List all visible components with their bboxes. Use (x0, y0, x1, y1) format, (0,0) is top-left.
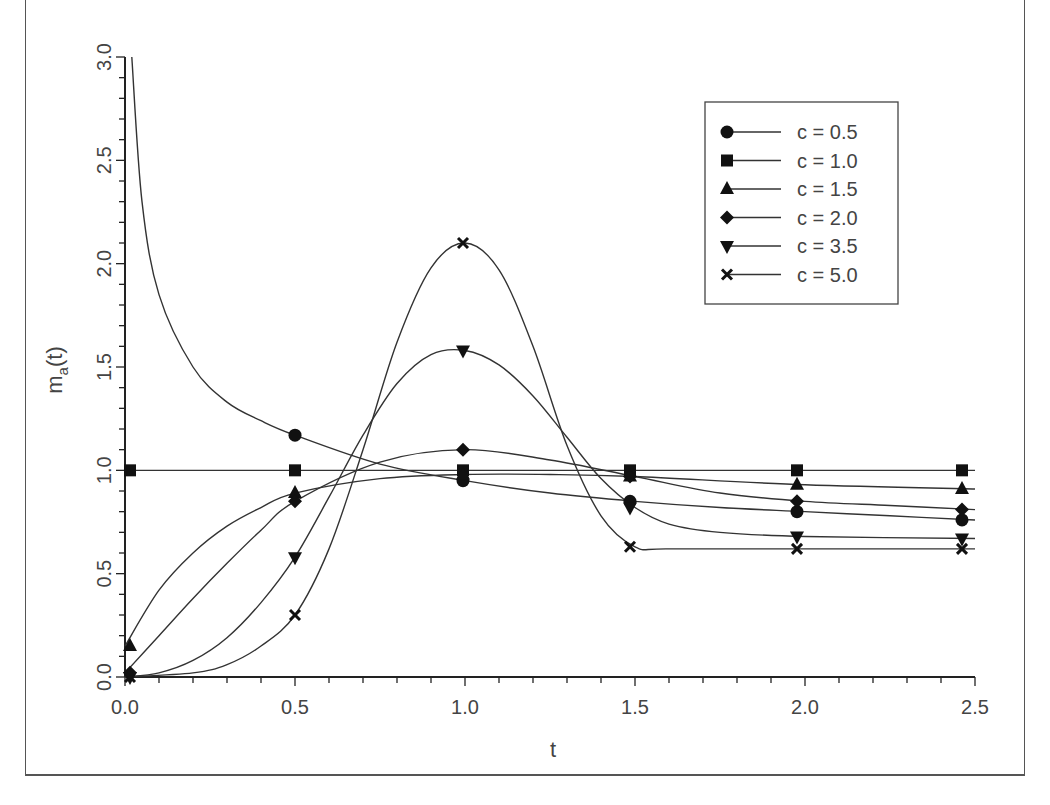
legend-marker-square (721, 155, 733, 167)
y-tick-label: 0.0 (93, 663, 115, 691)
y-axis-title-main: m (42, 375, 67, 393)
chart: 0.00.51.01.52.02.50.00.51.01.52.02.53.0 … (0, 0, 1050, 805)
data-point-square (956, 464, 968, 476)
y-tick-label: 3.0 (93, 43, 115, 71)
x-axis-title: t (550, 737, 556, 762)
series-curve (125, 450, 975, 673)
legend: c = 0.5c = 1.0c = 1.5c = 2.0c = 3.5c = 5… (705, 102, 898, 304)
data-point-circle (289, 429, 302, 442)
legend-label: c = 2.0 (797, 207, 858, 229)
series-markers (123, 238, 969, 685)
y-tick-label: 1.0 (93, 456, 115, 484)
x-tick-label: 1.0 (451, 696, 479, 718)
y-tick-label: 2.5 (93, 146, 115, 174)
data-point-triangle-down (623, 503, 637, 516)
y-tick-label: 2.0 (93, 250, 115, 278)
legend-label: c = 1.0 (797, 150, 858, 172)
x-tick-label: 0.0 (111, 696, 139, 718)
data-point-triangle-down (288, 552, 302, 565)
y-tick-label: 1.5 (93, 353, 115, 381)
y-tick-label: 0.5 (93, 560, 115, 588)
data-point-triangle-down (790, 531, 804, 544)
series-curve (125, 474, 975, 646)
data-point-diamond (955, 503, 969, 517)
legend-label: c = 0.5 (797, 121, 858, 143)
data-point-triangle-up (790, 477, 804, 490)
x-tick-label: 2.5 (961, 696, 989, 718)
y-axis-title-tail: (t) (42, 346, 67, 367)
data-point-diamond (456, 443, 470, 457)
data-point-triangle-up (955, 481, 969, 494)
x-tick-label: 0.5 (281, 696, 309, 718)
svg-text:ma(t): ma(t) (42, 346, 71, 393)
y-axis-title: ma(t) (42, 346, 71, 393)
data-point-square (124, 464, 136, 476)
x-tick-label: 1.5 (621, 696, 649, 718)
legend-marker-circle (721, 126, 734, 139)
data-point-x (290, 610, 300, 620)
legend-label: c = 5.0 (797, 264, 858, 286)
x-tick-label: 2.0 (791, 696, 819, 718)
data-point-square (791, 464, 803, 476)
data-point-square (289, 464, 301, 476)
legend-label: c = 3.5 (797, 235, 858, 257)
data-point-triangle-down (456, 345, 470, 358)
legend-label: c = 1.5 (797, 178, 858, 200)
data-point-diamond (790, 494, 804, 508)
